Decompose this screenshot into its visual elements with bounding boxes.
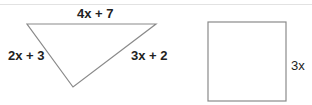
triangle-right-side-label: 3x + 2: [131, 48, 168, 63]
triangle-left-side-label: 2x + 3: [8, 48, 45, 63]
triangle-top-side-label: 4x + 7: [77, 6, 114, 21]
square-side-label: 3x: [291, 58, 305, 73]
square-shape: [208, 22, 286, 101]
